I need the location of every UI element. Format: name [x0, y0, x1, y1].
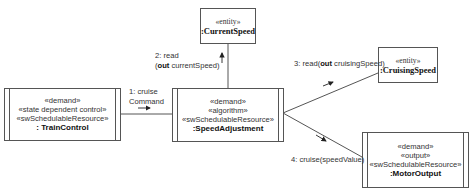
message-label-4: 4: cruise(speedValue) [291, 155, 364, 165]
figure-caption-cutoff [0, 191, 300, 196]
object-speed-adjustment[interactable]: «demand» «algorithm» «swSchedulableResou… [172, 88, 284, 142]
message-label-3: 3: read(out cruisingSpeed) [294, 59, 385, 69]
message-label-2: 2: read (out currentSpeed) [155, 51, 220, 70]
stereotype-label: «algorithm» [208, 106, 248, 115]
stereotype-label: «demand» [210, 97, 246, 106]
stereotype-label: «output» [401, 151, 431, 160]
link-speedadjustment-motoroutput [283, 113, 362, 157]
stereotype-label: «entity» [216, 17, 241, 26]
object-motor-output[interactable]: «demand» «output» «swSchedulableResource… [362, 132, 469, 188]
object-cruising-speed[interactable]: «entity» :CruisingSpeed [378, 47, 438, 83]
stereotype-label: «state dependent control» [19, 105, 107, 114]
stereotype-label: «demand» [45, 96, 81, 105]
stereotype-label: «swSchedulableResource» [369, 160, 461, 169]
object-name: :CurrentSpeed [201, 26, 255, 36]
stereotype-label: «demand» [398, 142, 434, 151]
message-label-1: 1: cruise Command [129, 87, 164, 106]
stereotype-label: «swSchedulableResource» [16, 114, 108, 123]
object-name: :CruisingSpeed [380, 65, 436, 75]
object-name: :MotorOutput [390, 169, 441, 179]
link-speedadjustment-cruisingspeed [283, 73, 378, 113]
message-arrow-3 [323, 82, 333, 86]
object-train-control[interactable]: «demand» «state dependent control» «swSc… [4, 88, 121, 141]
object-name: : TrainControl [36, 123, 88, 133]
stereotype-label: «entity» [396, 56, 421, 65]
object-current-speed[interactable]: «entity» :CurrentSpeed [200, 8, 256, 44]
stereotype-label: «swSchedulableResource» [182, 115, 274, 124]
object-name: :SpeedAdjustment [193, 124, 264, 134]
